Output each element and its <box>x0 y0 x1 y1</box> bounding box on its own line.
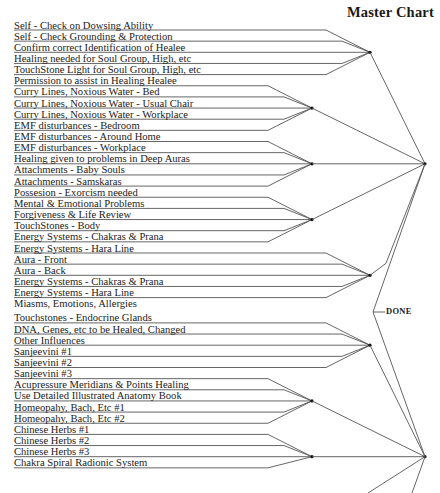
checklist-item: Homeopahy, Bach, Etc #2 <box>14 413 125 424</box>
checklist-item: Healing needed for Soul Group, High, etc <box>14 53 191 64</box>
checklist-item: EMF disturbances - Around Home <box>14 131 161 142</box>
checklist-item: Aura - Back <box>14 265 66 276</box>
checklist-item: Chinese Herbs #3 <box>14 446 89 457</box>
checklist-item: Sanjeevini #1 <box>14 346 72 357</box>
checklist-item: Healing given to problems in Deep Auras <box>14 153 190 164</box>
checklist-item: Curry Lines, Noxious Water - Usual Chair <box>14 98 193 109</box>
done-label: DONE <box>386 306 412 316</box>
checklist-item: Energy Systems - Hara Line <box>14 243 134 254</box>
checklist-item: TouchStones - Body <box>14 220 100 231</box>
checklist-item: Permission to assist in Healing Healee <box>14 75 177 86</box>
checklist-item: Chinese Herbs #2 <box>14 435 89 446</box>
checklist-item: Homeopahy, Bach, Etc #1 <box>14 402 125 413</box>
checklist-item: TouchStone Light for Soul Group, High, e… <box>14 64 201 75</box>
checklist-item: DNA, Genes, etc to be Healed, Changed <box>14 324 186 335</box>
checklist-item: Energy Systems - Hara Line <box>14 287 134 298</box>
checklist-item: Self - Check on Dowsing Ability <box>14 20 153 31</box>
checklist-item: EMF disturbances - Bedroom <box>14 120 140 131</box>
checklist-item: Confirm correct Identification of Healee <box>14 42 185 53</box>
checklist-item: Curry Lines, Noxious Water - Workplace <box>14 109 188 120</box>
checklist-item: Curry Lines, Noxious Water - Bed <box>14 86 159 97</box>
checklist-item: EMF disturbances - Workplace <box>14 142 146 153</box>
checklist-item: Acupressure Meridians & Points Healing <box>14 379 189 390</box>
checklist-item: Self - Check Grounding & Protection <box>14 31 173 42</box>
checklist-item: Other Influences <box>14 335 85 346</box>
checklist-item: Attachments - Samskaras <box>14 176 122 187</box>
checklist-item: Chinese Herbs #1 <box>14 424 89 435</box>
checklist-item: Energy Systems - Chakras & Prana <box>14 276 164 287</box>
checklist-item: Attachments - Baby Souls <box>14 164 125 175</box>
checklist-item: Use Detailed Illustrated Anatomy Book <box>14 390 182 401</box>
checklist-item: Possesion - Exorcism needed <box>14 187 138 198</box>
checklist-item: Energy Systems - Chakras & Prana <box>14 231 164 242</box>
checklist-item: Sanjeevini #3 <box>14 368 72 379</box>
checklist-item: Touchstones - Endocrine Glands <box>14 312 152 323</box>
checklist-item: Mental & Emotional Problems <box>14 198 144 209</box>
checklist-item: Sanjeevini #2 <box>14 357 72 368</box>
checklist-item: Aura - Front <box>14 254 67 265</box>
checklist-item: Forgiveness & Life Review <box>14 209 131 220</box>
checklist-item: Chakra Spiral Radionic System <box>14 457 147 468</box>
checklist-item: Miasms, Emotions, Allergies <box>14 298 137 309</box>
